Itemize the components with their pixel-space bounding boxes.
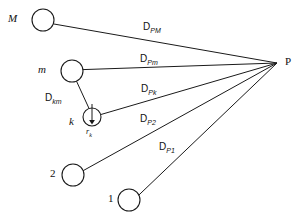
- node-circle-M: [32, 9, 54, 31]
- node-label-1: 1: [108, 193, 114, 204]
- edge-D-Pm: [83, 63, 277, 70]
- edge-label-D-P2: DP2: [140, 114, 156, 126]
- node-circle-1: [118, 189, 140, 211]
- node-label-2: 2: [50, 168, 56, 179]
- vector-label-r-k-sub: k: [89, 132, 92, 138]
- edge-label-D-Pm-sub: Pm: [147, 59, 158, 66]
- edge-label-D-PM: DPM: [143, 22, 161, 34]
- edge-D-km: [77, 81, 90, 108]
- edge-label-D-Pk: DPk: [141, 84, 156, 96]
- edge-label-D-P1-sub: P1: [166, 147, 175, 154]
- edge-label-D-P1: DP1: [159, 142, 175, 154]
- vector-label-r-k: rk: [86, 128, 92, 138]
- edge-label-D-km: Dkm: [45, 93, 62, 105]
- edge-D-PM: [53, 24, 277, 63]
- edge-label-D-km-sub: km: [52, 98, 61, 105]
- node-label-M: M: [8, 13, 17, 24]
- edge-label-D-Pm: DPm: [140, 54, 158, 66]
- diagram-canvas: M m k 2 1 P DPM DPm DPk DP2 DP1 Dkm rk: [0, 0, 299, 214]
- node-circle-m: [61, 60, 83, 82]
- node-label-k: k: [69, 116, 74, 127]
- edge-label-D-P2-sub: P2: [147, 119, 156, 126]
- node-label-P: P: [285, 56, 291, 67]
- edge-label-D-PM-sub: PM: [150, 27, 161, 34]
- edge-D-P2: [83, 63, 277, 171]
- edge-label-D-Pk-sub: Pk: [148, 89, 156, 96]
- node-circle-2: [62, 164, 84, 186]
- node-label-m: m: [38, 64, 46, 75]
